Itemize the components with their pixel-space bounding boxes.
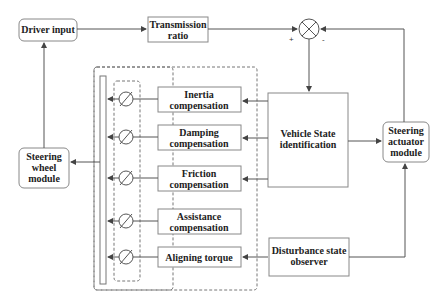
steering-actuator-line3: module — [390, 147, 422, 158]
driver-input-label: Driver input — [21, 24, 75, 35]
transmission-ratio-line2: ratio — [168, 30, 189, 41]
steering-wheel-line2: wheel — [32, 162, 57, 173]
disturbance-line1: Disturbance state — [272, 245, 347, 256]
damping-line1: Damping — [179, 127, 218, 138]
disturbance-line2: observer — [290, 256, 328, 267]
inertia-line1: Inertia — [184, 89, 213, 100]
steering-wheel-line3: module — [28, 173, 60, 184]
driver-input-block: Driver input — [19, 19, 77, 41]
transmission-ratio-block: Transmission ratio — [148, 17, 208, 42]
friction-line2: compensation — [170, 179, 229, 190]
control-block-diagram: Driver input Transmission ratio + - Iner… — [0, 0, 445, 307]
vehicle-state-line2: identification — [280, 139, 337, 150]
summing-junction: + - — [289, 19, 325, 44]
assistance-compensation-block: Assistance compensation — [158, 209, 241, 234]
gain-switch-icons — [119, 92, 133, 264]
inertia-compensation-block: Inertia compensation — [158, 87, 241, 112]
steering-wheel-line1: Steering — [26, 151, 62, 162]
steering-wheel-block: Steering wheel module — [19, 148, 69, 188]
assistance-line1: Assistance — [177, 211, 222, 222]
disturbance-observer-block: Disturbance state observer — [269, 238, 349, 276]
summing-bar — [100, 76, 106, 284]
steering-actuator-line1: Steering — [388, 125, 424, 136]
minus-sign: - — [322, 35, 325, 44]
vehicle-state-block: Vehicle State identification — [268, 93, 348, 187]
steering-actuator-block: Steering actuator module — [383, 122, 429, 162]
gain-switch-icon — [119, 250, 133, 264]
transmission-ratio-line1: Transmission — [149, 19, 206, 30]
friction-line1: Friction — [182, 168, 217, 179]
damping-compensation-block: Damping compensation — [158, 125, 241, 150]
gain-switch-icon — [119, 130, 133, 144]
damping-line2: compensation — [170, 138, 229, 149]
gain-switch-icon — [119, 214, 133, 228]
steering-actuator-line2: actuator — [388, 136, 425, 147]
vehicle-state-line1: Vehicle State — [281, 128, 336, 139]
plus-sign: + — [289, 35, 294, 44]
assistance-line2: compensation — [170, 222, 229, 233]
aligning-torque-block: Aligning torque — [158, 247, 241, 267]
inertia-line2: compensation — [170, 100, 229, 111]
gain-switch-icon — [119, 171, 133, 185]
gain-switch-icon — [119, 92, 133, 106]
friction-compensation-block: Friction compensation — [158, 166, 241, 191]
aligning-label: Aligning torque — [165, 252, 233, 263]
